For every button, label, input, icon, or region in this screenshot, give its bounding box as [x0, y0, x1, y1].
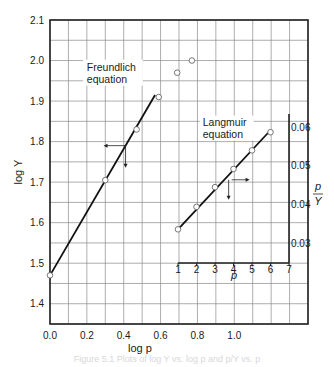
langmuir-series: Langmuirequation — [175, 116, 273, 233]
svg-text:0.03: 0.03 — [291, 238, 311, 249]
data-point — [231, 166, 237, 172]
svg-text:1.8: 1.8 — [30, 136, 44, 147]
svg-text:0.04: 0.04 — [291, 199, 311, 210]
data-point — [212, 184, 218, 190]
svg-text:1.9: 1.9 — [30, 96, 44, 107]
data-point — [268, 129, 274, 135]
freundlich-series: Freundlichequation — [47, 58, 195, 278]
svg-text:p: p — [314, 180, 321, 192]
svg-text:0.05: 0.05 — [291, 160, 311, 171]
svg-text:1.4: 1.4 — [30, 298, 44, 309]
svg-text:0.2: 0.2 — [80, 330, 94, 341]
svg-text:equation: equation — [203, 128, 243, 140]
svg-text:1.0: 1.0 — [227, 330, 241, 341]
svg-text:1.5: 1.5 — [30, 258, 44, 269]
data-point — [134, 127, 140, 133]
inset-x-axis-label-p: p — [230, 269, 237, 281]
svg-text:0.6: 0.6 — [154, 330, 168, 341]
inset-y-axis-label-p-over-y: p Y — [313, 180, 323, 207]
svg-text:1.7: 1.7 — [30, 177, 44, 188]
data-point — [249, 148, 255, 154]
data-point — [175, 227, 181, 233]
svg-text:0.06: 0.06 — [291, 122, 311, 133]
data-point — [194, 204, 200, 210]
data-point — [156, 94, 162, 100]
svg-text:Y: Y — [314, 195, 322, 207]
data-point — [189, 58, 195, 64]
svg-text:1.6: 1.6 — [30, 217, 44, 228]
data-point — [174, 70, 180, 76]
svg-text:2.0: 2.0 — [30, 55, 44, 66]
svg-text:3: 3 — [212, 264, 218, 275]
data-point — [47, 273, 53, 279]
svg-text:2: 2 — [194, 264, 200, 275]
figure-caption: Figure 5.1 Plots of log Y vs. log p and … — [74, 354, 261, 364]
inset-tick-labels: 12345670.030.040.050.06 — [175, 122, 311, 275]
svg-text:equation: equation — [87, 73, 127, 85]
svg-text:0.0: 0.0 — [43, 330, 57, 341]
y-axis-label-log-y: log Y — [12, 159, 24, 185]
data-point — [102, 177, 108, 183]
x-axis-label-log-p: log p — [128, 342, 152, 354]
svg-text:5: 5 — [249, 264, 255, 275]
svg-text:2.1: 2.1 — [30, 15, 44, 26]
svg-text:1: 1 — [175, 264, 181, 275]
svg-text:Langmuir: Langmuir — [203, 116, 247, 128]
svg-text:0.8: 0.8 — [190, 330, 204, 341]
svg-text:7: 7 — [286, 264, 292, 275]
svg-text:0.4: 0.4 — [117, 330, 131, 341]
svg-text:6: 6 — [268, 264, 274, 275]
svg-text:Freundlich: Freundlich — [87, 61, 136, 73]
adsorption-isotherm-chart: 0.00.20.40.60.81.01.41.51.61.71.81.92.02… — [0, 0, 334, 367]
